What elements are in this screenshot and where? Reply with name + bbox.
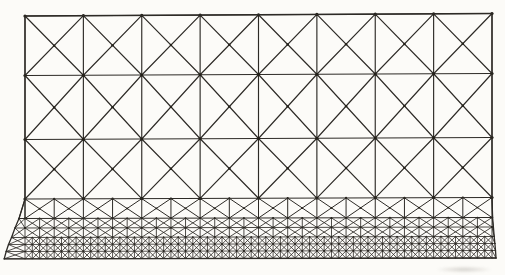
- fem-mesh-figure: [0, 0, 505, 275]
- mesh-svg: [0, 0, 505, 275]
